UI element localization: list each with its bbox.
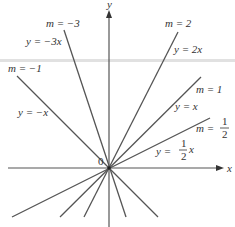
svg-text:x: x [188, 143, 194, 155]
slope-label-1: m = 1 [196, 83, 222, 95]
slope-label-half: m = 1 2 [196, 115, 229, 140]
origin-label: 0 [98, 155, 104, 167]
svg-text:1: 1 [181, 137, 187, 149]
equation-label-neg1: y = −x [17, 106, 48, 118]
x-axis-arrow-icon [216, 165, 224, 171]
svg-text:y =: y = [155, 145, 171, 157]
y-axis-arrow-icon [106, 10, 112, 18]
y-axis-label: y [106, 0, 112, 10]
svg-text:2: 2 [222, 128, 228, 140]
svg-text:m =: m = [196, 122, 214, 134]
svg-text:1: 1 [222, 115, 228, 127]
line-slope-neg1 [17, 76, 158, 217]
x-axis-label: x [226, 162, 232, 174]
slope-label-neg3: m = −3 [46, 17, 80, 29]
line-slope-1 [60, 77, 201, 217]
slope-label-2: m = 2 [165, 17, 192, 29]
equation-label-half: y = 1 2 x [155, 137, 194, 162]
origin-point [107, 166, 111, 170]
line-slope-neg3 [64, 30, 126, 217]
svg-text:2: 2 [181, 150, 187, 162]
equation-label-1: y = x [174, 100, 198, 112]
slope-label-neg1: m = −1 [8, 62, 42, 74]
equation-label-2: y = 2x [173, 43, 202, 55]
slope-lines-diagram: y x 0 m = −3 y = −3x m = −1 y = −x m = 2… [0, 0, 235, 227]
equation-label-neg3: y = −3x [25, 35, 62, 47]
